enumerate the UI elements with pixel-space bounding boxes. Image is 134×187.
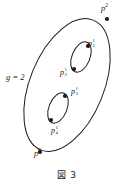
point-label-p2-1-subscript: 2 <box>65 72 67 77</box>
point-label-p1-1-subscript: 1 <box>93 43 95 48</box>
genus-label: g = 2 <box>6 73 25 82</box>
point-p3-1 <box>63 94 67 98</box>
point-label-p1-1-base: p <box>88 39 92 48</box>
point-label-p1-1: p11 <box>88 38 95 48</box>
point-label-p3-1-subscript: 3 <box>76 91 78 96</box>
point-label-p4-1-subscript: 4 <box>56 130 58 135</box>
lower-handle-oval <box>44 90 73 126</box>
point-label-p4-1: p14 <box>51 125 58 135</box>
point-label-p3-1-base: p <box>71 87 75 96</box>
point-label-p2-1: p12 <box>60 67 67 77</box>
point-p2 <box>105 17 109 21</box>
point-label-p2: p2 <box>101 4 108 13</box>
genus-2-surface-diagram <box>0 0 134 187</box>
figure-caption: 図 3 <box>0 168 134 181</box>
point-label-p0-superscript: 0 <box>38 147 41 153</box>
point-label-p0: p0 <box>34 149 41 158</box>
point-label-p2-1-base: p <box>60 68 64 77</box>
point-label-p4-1-base: p <box>51 126 55 135</box>
point-p4-1 <box>49 118 53 122</box>
outer-ellipse <box>6 6 127 164</box>
point-p2-1 <box>72 67 76 71</box>
point-label-p3-1: p13 <box>71 86 78 96</box>
figure-container: p2 p0 p11 p12 p13 p14 g = 2 図 3 <box>0 0 134 187</box>
point-label-p2-superscript: 2 <box>105 2 108 8</box>
